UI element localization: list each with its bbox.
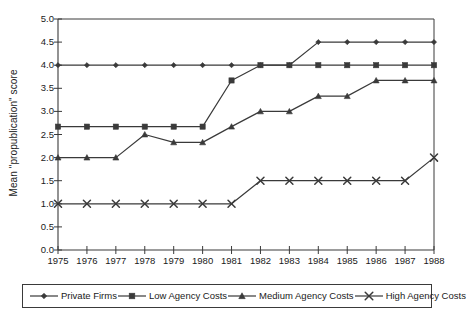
diamond-marker-icon	[431, 40, 436, 45]
square-marker-icon	[316, 63, 321, 68]
data-point	[171, 124, 176, 129]
triangle-marker-icon	[142, 132, 148, 137]
legend-marker	[41, 293, 47, 299]
series-line	[58, 158, 434, 204]
data-point	[113, 124, 118, 129]
chart-legend: Private FirmsLow Agency CostsMedium Agen…	[22, 284, 432, 308]
data-point	[287, 63, 292, 68]
data-point	[402, 40, 407, 45]
square-marker-icon	[129, 293, 135, 299]
data-point	[84, 63, 89, 68]
square-marker-icon	[171, 124, 176, 129]
data-point	[200, 124, 205, 129]
data-point	[200, 63, 205, 68]
data-point	[142, 63, 147, 68]
legend-marker	[129, 293, 135, 299]
legend-item-medium-agency-costs[interactable]: Medium Agency Costs	[227, 290, 354, 302]
legend-swatch	[117, 290, 147, 302]
legend-swatch	[227, 290, 257, 302]
square-marker-icon	[258, 63, 263, 68]
square-marker-icon	[431, 63, 436, 68]
square-marker-icon	[142, 124, 147, 129]
data-point	[55, 124, 60, 129]
legend-label: High Agency Costs	[386, 291, 466, 301]
data-point	[229, 78, 234, 83]
square-marker-icon	[113, 124, 118, 129]
data-point	[402, 63, 407, 68]
data-point	[113, 63, 118, 68]
square-marker-icon	[345, 63, 350, 68]
data-point	[142, 124, 147, 129]
legend-item-private-firms[interactable]: Private Firms	[29, 290, 117, 302]
data-point	[229, 124, 235, 129]
data-point	[258, 63, 263, 68]
diamond-marker-icon	[229, 63, 234, 68]
square-marker-icon	[84, 124, 89, 129]
data-point	[55, 63, 60, 68]
series-line	[58, 80, 434, 157]
diamond-marker-icon	[171, 63, 176, 68]
data-point	[374, 63, 379, 68]
plot-area	[0, 0, 454, 280]
data-point	[345, 40, 350, 45]
diamond-marker-icon	[142, 63, 147, 68]
data-point	[431, 63, 436, 68]
data-point	[345, 63, 350, 68]
diamond-marker-icon	[200, 63, 205, 68]
square-marker-icon	[55, 124, 60, 129]
triangle-marker-icon	[229, 124, 235, 129]
diamond-marker-icon	[41, 293, 47, 299]
series-line	[58, 42, 434, 65]
series-line	[58, 65, 434, 126]
diamond-marker-icon	[55, 63, 60, 68]
diamond-marker-icon	[84, 63, 89, 68]
diamond-marker-icon	[374, 40, 379, 45]
x-axis-tick-labels: 1975197619771978197919801981198219831984…	[0, 256, 454, 270]
square-marker-icon	[402, 63, 407, 68]
legend-swatch	[29, 290, 59, 302]
square-marker-icon	[287, 63, 292, 68]
legend-item-high-agency-costs[interactable]: High Agency Costs	[354, 290, 466, 302]
diamond-marker-icon	[402, 40, 407, 45]
diamond-marker-icon	[113, 63, 118, 68]
data-point	[142, 132, 148, 137]
legend-item-low-agency-costs[interactable]: Low Agency Costs	[117, 290, 227, 302]
data-point	[374, 40, 379, 45]
data-point	[229, 63, 234, 68]
legend-label: Low Agency Costs	[149, 291, 227, 301]
legend-label: Private Firms	[61, 291, 117, 301]
square-marker-icon	[374, 63, 379, 68]
square-marker-icon	[200, 124, 205, 129]
data-series-1	[55, 40, 436, 68]
diamond-marker-icon	[345, 40, 350, 45]
data-point	[431, 40, 436, 45]
data-series-3	[55, 77, 437, 160]
legend-swatch	[354, 290, 384, 302]
data-point	[316, 63, 321, 68]
data-point	[84, 124, 89, 129]
x-axis-tick-label: 1988	[414, 256, 454, 266]
data-series-4	[54, 154, 437, 207]
square-marker-icon	[229, 78, 234, 83]
data-point	[171, 63, 176, 68]
legend-label: Medium Agency Costs	[259, 291, 354, 301]
